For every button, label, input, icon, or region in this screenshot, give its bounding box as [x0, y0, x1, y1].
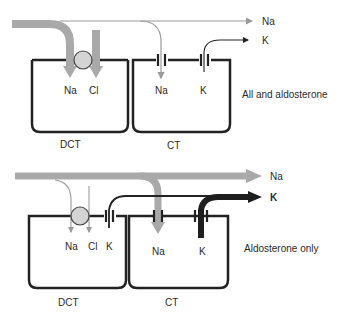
ct-k-label: K: [199, 246, 206, 257]
dct-k-channel-icon: [104, 210, 116, 222]
dct-cl-label: Cl: [89, 85, 98, 96]
k-channel-icon: [199, 54, 211, 66]
nacl-cotransporter-icon: [71, 207, 89, 225]
na-outflow-label: Na: [270, 171, 283, 182]
panel-bottom: Na Cl K Na K Na K Aldosterone only DCT C…: [15, 169, 319, 308]
na-dct-thin-arrow-icon: [55, 180, 71, 232]
ct-cell-label: CT: [167, 140, 180, 151]
ct-na-label: Na: [155, 85, 168, 96]
dct-cl-label: Cl: [88, 241, 97, 252]
na-ct-arrow-icon: [140, 21, 161, 78]
k-outflow-label: K: [270, 192, 278, 203]
k-outflow-label: K: [262, 35, 269, 46]
dct-cell-top: [32, 60, 128, 132]
nephron-transport-diagram: Na Cl Na K Na K All and aldosterone DCT …: [0, 0, 347, 323]
dct-cell-label: DCT: [60, 139, 81, 150]
panel-top: Na Cl Na K Na K All and aldosterone DCT …: [12, 16, 328, 151]
na-channel-icon: [156, 54, 168, 66]
ct-cell-bottom: [129, 216, 228, 288]
ct-na-label: Na: [152, 246, 165, 257]
nacl-cotransporter-icon: [74, 51, 92, 69]
dct-na-label: Na: [64, 85, 77, 96]
ct-cell-top: [133, 60, 230, 132]
condition-label: All and aldosterone: [242, 89, 328, 100]
dct-na-label: Na: [65, 241, 78, 252]
ct-cell-label: CT: [165, 297, 178, 308]
dct-k-label: K: [106, 241, 113, 252]
condition-label: Aldosterone only: [244, 243, 319, 254]
dct-cell-label: DCT: [58, 297, 79, 308]
na-dct-thick-arrow-icon: [12, 24, 70, 68]
k-ct-thick-secretion-arrow-icon: [201, 197, 250, 238]
na-outflow-label: Na: [262, 16, 275, 27]
ct-k-label: K: [200, 85, 207, 96]
dct-cell-bottom: [29, 216, 126, 288]
